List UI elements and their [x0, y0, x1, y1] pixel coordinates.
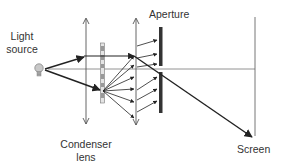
condenser-lens-label: Condenser lens — [58, 138, 114, 163]
condenser-label-line2: lens — [58, 151, 114, 163]
grating-icon — [101, 43, 105, 103]
screen-label: Screen — [237, 143, 270, 156]
light-source-label-line2: source — [3, 43, 41, 56]
lens-to-aperture-rays — [137, 40, 157, 112]
light-source-label: Light source — [3, 30, 41, 56]
second-lens-icon — [133, 18, 139, 125]
source-rays — [45, 56, 134, 90]
optics-diagram — [0, 0, 283, 163]
aperture-icon — [159, 27, 163, 113]
condenser-label-line1: Condenser — [58, 138, 114, 151]
light-source-label-line1: Light — [3, 30, 41, 43]
main-ray — [134, 56, 252, 137]
light-bulb-icon — [35, 64, 43, 76]
aperture-label: Aperture — [149, 8, 189, 21]
condenser-lens-icon — [83, 18, 89, 124]
diffracted-rays — [103, 56, 134, 118]
